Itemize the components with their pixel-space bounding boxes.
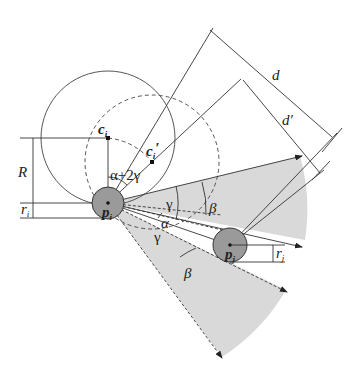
R-label: R [17, 164, 27, 180]
beta-upper-label: β [208, 200, 217, 216]
ci-prime-label: ci′ [146, 140, 159, 161]
rj-label: rj [276, 245, 285, 263]
geometry-diagram: R ri d d′ α+2γ γ α γ β β [0, 0, 361, 375]
beta-lower-label: β [183, 265, 192, 281]
gamma-upper-label: γ [165, 196, 173, 212]
d-label: d [272, 67, 280, 83]
alpha-label: α [161, 215, 170, 231]
ri-label: ri [21, 201, 30, 219]
d-prime-label: d′ [282, 112, 294, 128]
ci-label: ci [98, 121, 108, 139]
alpha-plus-2gamma-label: α+2γ [110, 167, 141, 183]
gamma-lower-label: γ [153, 229, 161, 245]
